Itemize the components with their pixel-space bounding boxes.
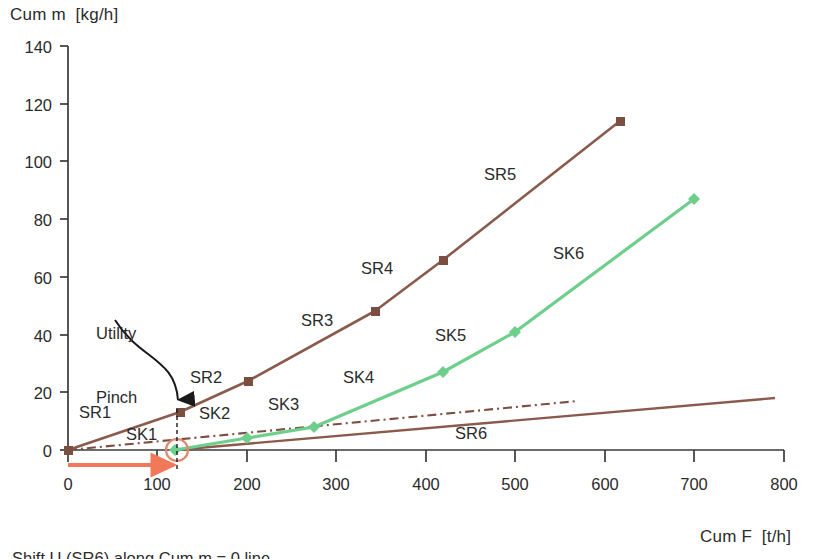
y-tick-label-120: 120 xyxy=(6,96,52,115)
series-label-sr2: SR2 xyxy=(190,368,222,387)
series-label-sk3: SK3 xyxy=(268,395,299,414)
series-label-sr5: SR5 xyxy=(484,165,516,184)
x-tick-label-700: 700 xyxy=(664,475,724,494)
series-label-sk2: SK2 xyxy=(199,404,230,423)
y-axis-title: Cum m [kg/h] xyxy=(10,5,118,25)
x-tick-label-500: 500 xyxy=(485,475,545,494)
y-tick-label-40: 40 xyxy=(6,327,52,346)
shift-caption: Shift U (SR6) along Cum m = 0 line which… xyxy=(12,506,270,559)
series-label-sr4: SR4 xyxy=(361,259,393,278)
sink-markers xyxy=(169,193,700,456)
y-tick-label-20: 20 xyxy=(6,384,52,403)
x-tick-label-300: 300 xyxy=(306,475,366,494)
utility-pinch-line-1: Utility xyxy=(96,323,137,344)
sink-composite-curve xyxy=(169,193,700,456)
x-tick-label-200: 200 xyxy=(217,475,277,494)
x-tick-label-600: 600 xyxy=(575,475,635,494)
utility-pinch-line-2: Pinch xyxy=(96,387,137,408)
x-tick-label-800: 800 xyxy=(754,475,814,494)
y-tick-label-100: 100 xyxy=(6,153,52,172)
series-label-sk6: SK6 xyxy=(553,244,584,263)
series-label-sr6: SR6 xyxy=(455,424,487,443)
y-tick-label-140: 140 xyxy=(6,38,52,57)
x-axis-title: Cum F [t/h] xyxy=(700,527,791,547)
series-label-sr3: SR3 xyxy=(301,311,333,330)
x-tick-label-400: 400 xyxy=(396,475,456,494)
x-tick-label-100: 100 xyxy=(127,475,187,494)
chart-canvas: Cum m [kg/h] Cum F [t/h] 140 120 100 80 … xyxy=(0,0,836,559)
utility-pinch-annotation: Utility Pinch xyxy=(96,281,137,450)
y-tick-label-80: 80 xyxy=(6,211,52,230)
series-label-sk4: SK4 xyxy=(343,368,374,387)
y-tick-label-0: 0 xyxy=(6,442,52,461)
x-tick-label-0: 0 xyxy=(38,475,98,494)
y-tick-label-60: 60 xyxy=(6,269,52,288)
shift-caption-line-1: Shift U (SR6) along Cum m = 0 line xyxy=(12,548,270,559)
y-axis-ticks xyxy=(60,46,68,450)
series-label-sk5: SK5 xyxy=(435,326,466,345)
